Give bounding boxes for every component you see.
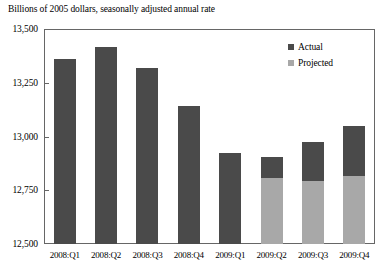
legend-label: Projected (298, 58, 333, 68)
x-tick-label: 2009:Q2 (257, 250, 287, 261)
bar-2009-q3 (302, 142, 324, 244)
bar-segment-projected (261, 178, 283, 244)
bar-segment-projected (302, 181, 324, 244)
y-axis: 13,50013,25013,00012,75012,500 (0, 0, 44, 276)
y-tick-label: 13,250 (12, 78, 38, 88)
bar-2008-q2 (95, 47, 117, 244)
x-tick-label: 2008:Q3 (132, 250, 162, 261)
x-axis: 2008:Q12008:Q22008:Q32008:Q42009:Q12009:… (44, 250, 375, 270)
legend-item-projected: Projected (288, 56, 333, 69)
y-tick-label: 13,000 (12, 132, 38, 142)
x-tick-label: 2008:Q1 (50, 250, 80, 261)
x-tick-label: 2009:Q4 (339, 250, 369, 261)
bar-segment-actual (54, 59, 76, 244)
legend-swatch-icon (288, 44, 294, 50)
x-tick-label: 2008:Q2 (91, 250, 121, 261)
y-tick-mark (44, 190, 49, 191)
bar-segment-actual (302, 142, 324, 181)
bar-2008-q3 (136, 68, 158, 244)
y-tick-label: 12,750 (12, 185, 38, 195)
y-tick-mark (44, 137, 49, 138)
bar-2009-q1 (219, 153, 241, 244)
bar-segment-actual (178, 106, 200, 244)
bar-2008-q1 (54, 59, 76, 244)
bar-2009-q4 (343, 126, 365, 244)
legend-label: Actual (298, 42, 323, 52)
y-tick-label: 12,500 (12, 239, 38, 249)
bar-segment-actual (136, 68, 158, 244)
gdp-bar-chart: Billions of 2005 dollars, seasonally adj… (0, 0, 384, 276)
x-tick-label: 2009:Q3 (298, 250, 328, 261)
y-tick-mark (44, 83, 49, 84)
bar-segment-actual (219, 153, 241, 244)
y-tick-label: 13,500 (12, 24, 38, 34)
legend-swatch-icon (288, 60, 294, 66)
bar-segment-actual (95, 47, 117, 244)
bar-segment-actual (261, 157, 283, 179)
chart-legend: ActualProjected (288, 40, 333, 72)
legend-item-actual: Actual (288, 40, 333, 53)
bar-segment-projected (343, 176, 365, 244)
bar-2009-q2 (261, 157, 283, 244)
x-tick-label: 2008:Q4 (174, 250, 204, 261)
bar-segment-actual (343, 126, 365, 177)
x-tick-label: 2009:Q1 (215, 250, 245, 261)
bar-2008-q4 (178, 106, 200, 244)
